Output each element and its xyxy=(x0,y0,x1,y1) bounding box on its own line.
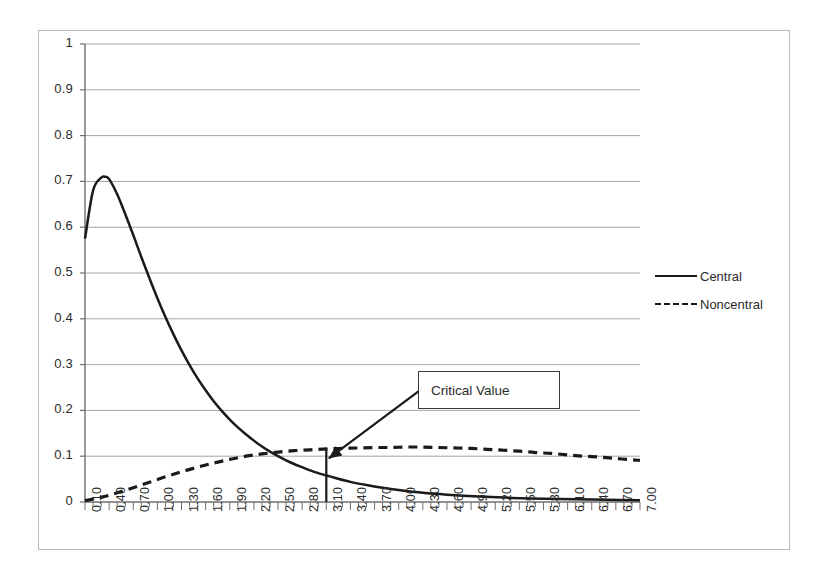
x-axis-tick-label: 3.70 xyxy=(380,487,394,512)
y-axis-tick-label: 0.2 xyxy=(33,401,73,416)
y-axis-tick-label: 0.6 xyxy=(33,218,73,233)
x-axis-tick-label: 5.80 xyxy=(548,487,562,512)
x-axis-tick-label: 3.10 xyxy=(331,487,345,512)
y-axis-tick-label: 0.4 xyxy=(33,310,73,325)
x-axis-tick-label: 2.80 xyxy=(307,487,321,512)
legend-label-noncentral: Noncentral xyxy=(700,297,763,312)
x-axis-tick-label: 3.40 xyxy=(355,487,369,512)
y-axis-ticks xyxy=(80,44,85,502)
x-axis-tick-label: 2.50 xyxy=(283,487,297,512)
y-axis-tick-label: 0.1 xyxy=(33,447,73,462)
critical-value-annotation-box[interactable]: Critical Value xyxy=(418,371,560,409)
x-axis-tick-label: 2.20 xyxy=(259,487,273,512)
x-axis-tick-label: 4.90 xyxy=(476,487,490,512)
legend-item-noncentral[interactable]: Noncentral xyxy=(655,290,805,318)
y-axis-tick-label: 1 xyxy=(33,35,73,50)
x-axis-tick-label: 1.30 xyxy=(187,487,201,512)
x-axis-tick-label: 6.70 xyxy=(621,487,635,512)
legend-line-dashed-icon xyxy=(655,303,697,305)
x-axis-tick-label: 7.00 xyxy=(645,487,659,512)
x-axis-tick-label: 6.10 xyxy=(573,487,587,512)
x-axis-tick-label: 0.10 xyxy=(90,487,104,512)
x-axis-tick-label: 0.70 xyxy=(138,487,152,512)
x-axis-tick-label: 0.40 xyxy=(114,487,128,512)
legend-line-solid-icon xyxy=(655,275,697,277)
y-axis-tick-label: 0.8 xyxy=(33,127,73,142)
series-central-line xyxy=(85,176,640,500)
chart-container: 10.90.80.70.60.50.40.30.20.10 0.100.400.… xyxy=(0,0,827,582)
x-axis-tick-label: 4.30 xyxy=(428,487,442,512)
x-axis-tick-label: 4.00 xyxy=(404,487,418,512)
x-axis-tick-label: 5.50 xyxy=(524,487,538,512)
y-axis-tick-label: 0.3 xyxy=(33,356,73,371)
x-axis-tick-label: 5.20 xyxy=(500,487,514,512)
x-axis-tick-label: 1.90 xyxy=(235,487,249,512)
y-axis-tick-label: 0.9 xyxy=(33,81,73,96)
legend-label-central: Central xyxy=(700,269,742,284)
critical-value-annotation-label: Critical Value xyxy=(431,383,510,398)
legend-item-central[interactable]: Central xyxy=(655,262,805,290)
x-axis-tick-label: 1.60 xyxy=(211,487,225,512)
y-axis-tick-label: 0.7 xyxy=(33,172,73,187)
x-axis-tick-label: 4.60 xyxy=(452,487,466,512)
x-axis-tick-label: 1.00 xyxy=(162,487,176,512)
x-axis-tick-label: 6.40 xyxy=(597,487,611,512)
y-axis-tick-label: 0.5 xyxy=(33,264,73,279)
chart-legend: Central Noncentral xyxy=(655,262,805,318)
y-axis-tick-label: 0 xyxy=(33,493,73,508)
